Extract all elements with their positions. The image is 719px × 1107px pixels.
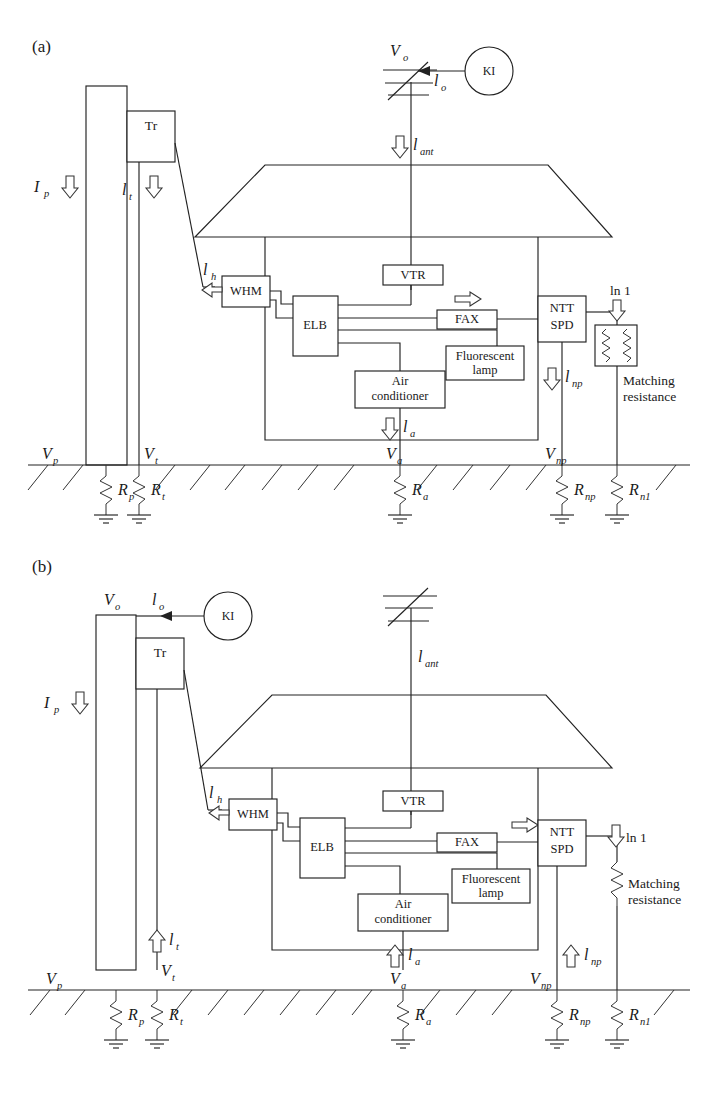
- transformer-block-a: Tr: [127, 111, 175, 162]
- ki-label-b: KI: [222, 609, 235, 623]
- air-conditioner-voltage-sub-a: a: [397, 455, 402, 466]
- ntt-ground-resistance-a: [550, 465, 574, 523]
- pole-ground-resistance-sub-b: p: [138, 1016, 144, 1027]
- utility-pole-a: [86, 86, 127, 465]
- air-conditioner-ground-resistance-a: [388, 465, 412, 523]
- transformer-voltage-sub-b: t: [172, 972, 176, 983]
- house-roof-a: [195, 165, 612, 237]
- ntt-ground-resistance-b: [545, 990, 569, 1048]
- injected-current-sub-a: o: [441, 82, 446, 93]
- fluorescent-lamp-label-a-2: lamp: [473, 363, 498, 377]
- transformer-ground-resistance-sub-b: t: [180, 1016, 184, 1027]
- ntt-spd-block-b: NTT SPD: [538, 820, 586, 866]
- pole-ground-resistance-label-a: R: [117, 481, 128, 498]
- line-1-current-label-b: ln 1: [626, 830, 647, 845]
- transformer-current-label-a: l: [122, 181, 127, 198]
- fax-direction-arrow-b: [512, 818, 538, 832]
- panel-b: (b) V o l o KI Tr: [28, 557, 690, 1048]
- ntt-line-current-arrow-b: [563, 945, 579, 967]
- pole-current-label-b: I: [43, 694, 50, 711]
- transformer-current-sub-b: t: [176, 941, 180, 952]
- vtr-block-b: VTR: [383, 791, 443, 811]
- pole-ground-resistance-label-b: R: [127, 1006, 138, 1023]
- fax-label-b: FAX: [455, 835, 479, 849]
- ntt-line-current-label-b: l: [584, 946, 589, 963]
- air-conditioner-current-arrow-a: [382, 418, 398, 440]
- transformer-ground-resistance-label-a: R: [150, 481, 161, 498]
- transformer-label-b: Tr: [154, 645, 167, 660]
- fax-direction-arrow-a: [455, 292, 481, 306]
- air-conditioner-label-a-2: conditioner: [372, 389, 430, 403]
- elb-label-b: ELB: [310, 840, 334, 854]
- service-drop-current-label-b: l: [209, 784, 214, 801]
- line1-ground-resistance-a: [605, 465, 629, 523]
- ntt-line-current-sub-b: np: [591, 956, 602, 967]
- pole-current-label-a: I: [33, 178, 40, 195]
- matching-resistance-label-a-2: resistance: [623, 389, 676, 404]
- transformer-ground-resistance-label-b: R: [168, 1006, 179, 1023]
- fluorescent-lamp-block-b: Fluorescent lamp: [452, 869, 530, 903]
- ntt-ground-resistance-label-b: R: [568, 1006, 579, 1023]
- earth-leakage-breaker-block-a: ELB: [293, 296, 338, 356]
- pole-current-sub-a: p: [43, 188, 49, 199]
- antenna-current-label-a: l: [413, 136, 418, 153]
- line1-ground-resistance-label-a: R: [628, 481, 639, 498]
- air-conditioner-block-a: Air conditioner: [355, 371, 445, 408]
- pole-voltage-sub-a: p: [52, 455, 58, 466]
- pole-voltage-sub-b: p: [56, 980, 62, 991]
- air-conditioner-current-sub-a: a: [410, 428, 415, 439]
- pole-current-sub-b: p: [53, 704, 59, 715]
- fluorescent-lamp-label-a-1: Fluorescent: [456, 349, 515, 363]
- ntt-line-current-arrow-a: [544, 368, 560, 390]
- antenna-b: [383, 588, 437, 815]
- air-conditioner-block-b: Air conditioner: [358, 894, 448, 931]
- antenna-current-sub-a: ant: [420, 146, 435, 157]
- service-drop-current-arrow-b: [209, 806, 229, 820]
- antenna-current-arrow-a: [392, 136, 408, 158]
- injected-current-label-b: l: [152, 591, 157, 608]
- injection-voltage-label-a: V: [390, 42, 402, 59]
- panel-b-label: (b): [32, 557, 52, 576]
- line1-ground-resistance-sub-b: n1: [640, 1016, 651, 1027]
- antenna-current-sub-b: ant: [425, 658, 440, 669]
- watt-hour-meter-block-b: WHM: [229, 799, 277, 830]
- fax-block-a: FAX: [437, 310, 497, 329]
- whm-label-b: WHM: [237, 807, 269, 821]
- ntt-spd-label-b-2: SPD: [551, 842, 574, 856]
- air-conditioner-ground-resistance-sub-b: a: [426, 1016, 431, 1027]
- transformer-current-label-b: l: [169, 931, 174, 948]
- air-conditioner-current-label-a: l: [403, 418, 408, 435]
- injected-current-sub-b: o: [159, 601, 164, 612]
- vtr-label-b: VTR: [401, 794, 427, 808]
- transformer-voltage-sub-a: t: [155, 455, 159, 466]
- utility-pole-b: [96, 615, 136, 970]
- elb-label-a: ELB: [303, 318, 327, 332]
- ntt-line-current-label-a: l: [565, 368, 570, 385]
- matching-resistance-label-a-1: Matching: [623, 373, 675, 388]
- air-conditioner-voltage-sub-b: a: [401, 980, 406, 991]
- injection-voltage-sub-a: o: [403, 52, 408, 63]
- ntt-spd-label-a-1: NTT: [550, 301, 575, 315]
- air-conditioner-label-a-1: Air: [392, 374, 410, 388]
- air-conditioner-current-arrow-b: [387, 945, 403, 967]
- ntt-ground-resistance-label-a: R: [573, 481, 584, 498]
- air-conditioner-ground-resistance-sub-a: a: [423, 491, 428, 502]
- ntt-line-current-sub-a: np: [572, 378, 583, 389]
- line1-ground-resistance-b: [605, 990, 629, 1048]
- panel-a: (a) Tr V o KI l: [28, 37, 690, 523]
- ki-label-a: KI: [483, 64, 496, 78]
- fax-block-b: FAX: [437, 833, 497, 852]
- air-conditioner-ground-resistance-label-b: R: [414, 1006, 425, 1023]
- ntt-voltage-sub-a: np: [556, 455, 567, 466]
- figure-root: (a) Tr V o KI l: [0, 0, 719, 1107]
- transformer-current-arrow-a: [146, 176, 162, 198]
- current-injector-a: KI: [418, 47, 513, 95]
- transformer-label: Tr: [145, 118, 158, 133]
- line1-ground-resistance-label-b: R: [628, 1006, 639, 1023]
- pole-ground-resistance-b: [104, 990, 128, 1048]
- vtr-block-a: VTR: [383, 265, 443, 285]
- fluorescent-lamp-block-a: Fluorescent lamp: [446, 346, 524, 380]
- fluorescent-lamp-label-b-2: lamp: [479, 886, 504, 900]
- antenna-current-label-b: l: [418, 648, 423, 665]
- ntt-spd-label-a-2: SPD: [551, 318, 574, 332]
